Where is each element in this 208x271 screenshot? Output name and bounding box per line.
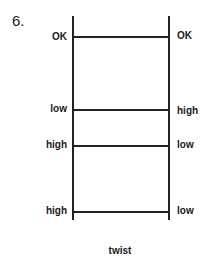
right-label-4: low <box>177 205 194 216</box>
left-label-1: OK <box>17 31 67 42</box>
rung-line-3 <box>72 145 169 147</box>
rung-line-2 <box>72 109 169 111</box>
left-label-4: high <box>17 205 67 216</box>
rung-line-1 <box>72 36 169 38</box>
rung-line-4 <box>72 211 169 213</box>
figure-caption: twist <box>0 245 208 256</box>
left-label-2: low <box>17 103 67 114</box>
right-label-2: high <box>177 105 198 116</box>
left-vertical-line <box>72 16 74 220</box>
right-label-3: low <box>177 139 194 150</box>
left-label-3: high <box>17 139 67 150</box>
right-vertical-line <box>168 16 170 220</box>
right-label-1: OK <box>177 30 192 41</box>
figure-number: 6. <box>12 12 25 29</box>
